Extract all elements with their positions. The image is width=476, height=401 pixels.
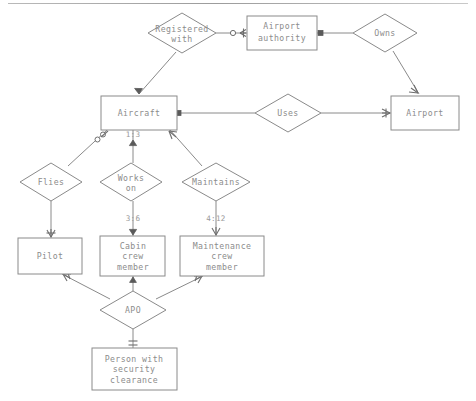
entity-maintenance-crew-member[interactable]: Maintenance crew member	[180, 236, 264, 276]
er-diagram-svg: Airport authority Airport Aircraft Pilot…	[0, 0, 476, 401]
relationship-flies[interactable]: Flies	[20, 163, 82, 201]
entity-person-security-clearance-label-line-1: Person with	[105, 354, 164, 364]
entity-maintenance-crew-member-label-line-1: Maintenance	[193, 241, 252, 251]
entity-person-security-clearance-label-line-3: clearance	[110, 375, 158, 385]
cardinality-works-on-cabin-crew: 3:6	[126, 214, 141, 223]
notation-many-airport-top	[409, 85, 418, 93]
cardinality-aircraft-works-on: 1:3	[126, 130, 141, 139]
notation-many-maintenance-crew-top	[212, 227, 220, 235]
entity-layer: Airport authority Airport Aircraft Pilot…	[18, 16, 459, 390]
relationship-registered-with-label-line-1: Registered	[155, 24, 208, 34]
entity-airport-label: Airport	[406, 108, 443, 118]
entity-cabin-crew-member-label-line-1: Cabin	[120, 241, 147, 251]
er-diagram-canvas: Airport authority Airport Aircraft Pilot…	[0, 0, 476, 401]
entity-maintenance-crew-member-label-line-2: crew	[211, 251, 232, 261]
cardinality-maintains-maintenance-crew: 4:12	[206, 214, 226, 223]
relationship-registered-with-label-line-2: with	[171, 34, 192, 44]
entity-aircraft-label: Aircraft	[118, 108, 161, 118]
entity-person-security-clearance-label-line-2: security	[113, 364, 156, 374]
notation-many-airport-left	[382, 109, 390, 118]
entity-airport-authority[interactable]: Airport authority	[247, 16, 317, 50]
relationship-apo-label: APO	[125, 305, 141, 315]
notation-many-pilot-top	[47, 229, 56, 237]
relationship-uses[interactable]: Uses	[255, 94, 321, 132]
relationship-works-on-label-line-2: on	[126, 183, 137, 193]
relationship-apo[interactable]: APO	[100, 291, 166, 329]
entity-airport-authority-label-line-2: authority	[258, 33, 306, 43]
entity-airport-authority-label-line-1: Airport	[263, 21, 300, 31]
notation-arrow-aircraft-bottom-center	[129, 140, 136, 146]
entity-cabin-crew-member-label-line-3: member	[117, 262, 149, 272]
relationship-maintains[interactable]: Maintains	[182, 163, 250, 201]
relationship-uses-label: Uses	[277, 108, 298, 118]
notation-arrow-cabin-crew-bottom	[130, 277, 137, 282]
notation-optional-many-aircraft-bottom-left	[95, 131, 108, 142]
relationship-works-on[interactable]: Works on	[100, 163, 162, 201]
entity-maintenance-crew-member-label-line-3: member	[206, 262, 238, 272]
relationship-maintains-label: Maintains	[192, 177, 240, 187]
entity-aircraft[interactable]: Aircraft	[101, 96, 177, 130]
edge-registered-with-to-aircraft	[139, 52, 176, 94]
entity-pilot[interactable]: Pilot	[18, 238, 82, 274]
relationship-owns-label: Owns	[374, 28, 395, 38]
relationship-works-on-label-line-1: Works	[118, 173, 145, 183]
relationship-layer: Registered with Owns Uses Flies Works on	[20, 13, 417, 329]
relationship-owns[interactable]: Owns	[353, 14, 417, 52]
notation-one-bar-airport-authority-right	[318, 30, 323, 35]
relationship-flies-label: Flies	[38, 177, 65, 187]
entity-cabin-crew-member-label-line-2: crew	[122, 251, 143, 261]
notation-many-aircraft-bottom-right	[169, 131, 177, 139]
relationship-registered-with[interactable]: Registered with	[148, 13, 216, 53]
entity-person-with-security-clearance[interactable]: Person with security clearance	[92, 348, 177, 390]
entity-pilot-label: Pilot	[37, 251, 64, 261]
entity-cabin-crew-member[interactable]: Cabin crew member	[100, 236, 165, 276]
notation-arrow-cabin-crew-top	[129, 229, 136, 235]
entity-airport[interactable]: Airport	[391, 96, 459, 130]
notation-arrow-aircraft-top	[135, 88, 143, 94]
